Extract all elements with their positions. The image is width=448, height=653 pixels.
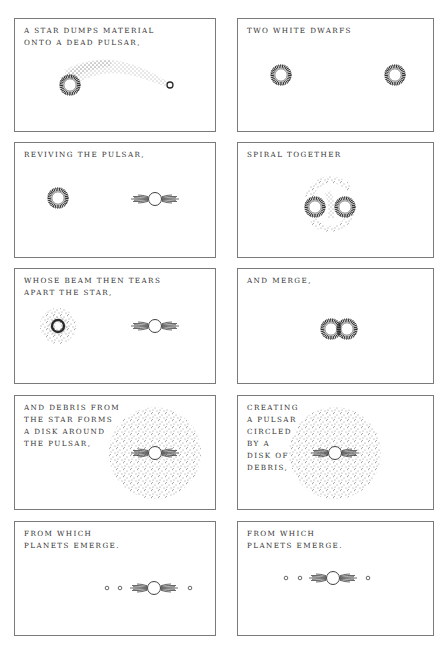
illustrations <box>0 0 448 653</box>
star-icon <box>48 188 68 208</box>
pulsar-icon <box>309 572 357 585</box>
accretion-stream <box>60 59 170 88</box>
star-icon <box>60 75 80 95</box>
white-dwarf-icon <box>271 65 291 85</box>
white-dwarf-icon <box>385 65 405 85</box>
dead-pulsar-icon <box>167 82 173 88</box>
pulsar-icon <box>130 582 178 595</box>
planet-icon <box>188 586 192 590</box>
pulsar-icon <box>131 320 179 333</box>
planet-icon <box>105 586 109 590</box>
planet-icon <box>298 576 302 580</box>
planet-icon <box>366 576 370 580</box>
pulsar-icon <box>131 193 179 206</box>
planet-icon <box>284 576 288 580</box>
merging-dwarfs <box>321 319 357 339</box>
white-dwarf-icon <box>305 197 325 217</box>
planet-icon <box>118 586 122 590</box>
